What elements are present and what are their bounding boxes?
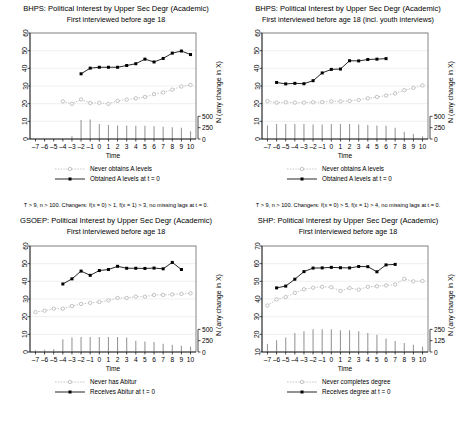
x-tick-label: 6 (152, 143, 156, 150)
series-marker (357, 288, 360, 291)
panel-shp: SHP: Political Interest by Upper Sec Deg… (232, 212, 464, 425)
x-tick-label: –1 (87, 356, 95, 363)
series-marker (152, 92, 155, 95)
series-marker (275, 101, 278, 104)
y-tick-label: 0 (254, 137, 261, 141)
series-marker (275, 286, 278, 289)
series-marker (357, 59, 360, 62)
series-marker (134, 62, 137, 65)
series-marker (89, 274, 92, 277)
legend-entry-never: Never obtains A levels (287, 165, 384, 172)
series-marker (107, 102, 110, 105)
series-marker (125, 296, 128, 299)
x-tick-label: 7 (161, 143, 165, 150)
series-marker (161, 293, 164, 296)
x-tick-label: 5 (375, 143, 379, 150)
series-never (266, 84, 424, 105)
y-gridlines (30, 33, 196, 121)
series-marker (384, 284, 387, 287)
y-axis: 0102030405060 (22, 29, 31, 141)
legend-label: Never obtains A levels (322, 165, 384, 172)
series-marker (311, 101, 314, 104)
x-tick-label: –6 (273, 356, 281, 363)
series-marker (375, 270, 378, 273)
y-tick-label: 50 (22, 47, 29, 55)
series-marker (284, 285, 287, 288)
x-tick-label: –3 (68, 143, 76, 150)
series-line (267, 279, 422, 306)
legend-label: Never obtains A levels (90, 165, 152, 172)
legend-entry-changer: Receives degree at t = 0 (287, 388, 391, 396)
x-tick-label: 9 (180, 356, 184, 363)
y-tick-label: 10 (22, 330, 29, 338)
series-marker (393, 283, 396, 286)
y2-axis-title: N (any change in X) (447, 61, 455, 123)
x-tick-label: 4 (366, 143, 370, 150)
series-marker (348, 99, 351, 102)
series-marker (143, 95, 146, 98)
y2-tick-label: 500 (202, 113, 213, 120)
y2-tick-label: 250 (434, 124, 445, 131)
legend-label: Receives Abitur at t = 0 (90, 388, 155, 395)
panel-subtitle-bhps-main: First interviewed before age 18 (67, 15, 166, 24)
y-tick-label: 60 (22, 242, 29, 250)
panel-note-bhps-youth: T > 9, n > 100. Changers: f(x = 0) > 5, … (256, 202, 441, 208)
x-tick-label: 2 (116, 143, 120, 150)
x-tick-label: 8 (402, 143, 406, 150)
x-tick-label: –6 (41, 143, 49, 150)
y2-tick-label: 500 (202, 326, 213, 333)
x-tick-label: –7 (264, 356, 272, 363)
x-tick-label: –5 (50, 356, 58, 363)
series-marker (143, 267, 146, 270)
series-marker (330, 266, 333, 269)
series-marker (52, 307, 55, 310)
series-marker (116, 265, 119, 268)
x-tick-label: 1 (107, 143, 111, 150)
x-axis: –7–6–5–4–3–2–1012345678910Time (262, 139, 428, 159)
series-marker (153, 60, 156, 63)
x-tick-label: –2 (77, 356, 85, 363)
series-marker (339, 289, 342, 292)
series-changer (61, 261, 183, 286)
series-marker (321, 266, 324, 269)
series-marker (70, 304, 73, 307)
panel-title-bhps-youth: BHPS: Political Interest by Upper Sec De… (255, 4, 441, 13)
y-tick-label: 30 (254, 313, 261, 321)
series-marker (171, 293, 174, 296)
series-marker (143, 295, 146, 298)
series-marker (312, 79, 315, 82)
x-tick-label: 10 (419, 143, 427, 150)
series-marker (348, 59, 351, 62)
x-axis-title: Time (338, 365, 353, 372)
y-tick-label: 10 (22, 117, 29, 125)
y-tick-label: 20 (254, 100, 261, 108)
series-marker (348, 266, 351, 269)
x-tick-label: 5 (375, 356, 379, 363)
series-marker (116, 66, 119, 69)
y-tick-label: 50 (254, 47, 261, 55)
x-tick-label: –7 (264, 143, 272, 150)
series-marker (284, 295, 287, 298)
series-changer (275, 57, 387, 85)
legend-entry-never: Never completes degree (287, 378, 391, 386)
series-marker (421, 84, 424, 87)
panel-title-shp: SHP: Political Interest by Upper Sec Deg… (258, 216, 439, 225)
series-marker (107, 299, 110, 302)
series-marker (189, 83, 192, 86)
y-tick-label: 50 (22, 260, 29, 268)
y2-tick-label: 0 (202, 349, 206, 356)
legend-label: Never completes degree (322, 378, 391, 386)
figure-panel-grid: BHPS: Political Interest by Upper Sec De… (0, 0, 464, 425)
series-marker (89, 67, 92, 70)
series-marker (366, 265, 369, 268)
series-marker (330, 285, 333, 288)
x-tick-label: –2 (77, 143, 85, 150)
series-marker (330, 68, 333, 71)
series-marker (70, 277, 73, 280)
x-tick-label: –1 (87, 143, 95, 150)
series-never (34, 292, 192, 314)
x-tick-label: –6 (41, 356, 49, 363)
series-marker (312, 267, 315, 270)
x-tick-label: 6 (384, 356, 388, 363)
y-tick-label: 60 (254, 260, 261, 268)
